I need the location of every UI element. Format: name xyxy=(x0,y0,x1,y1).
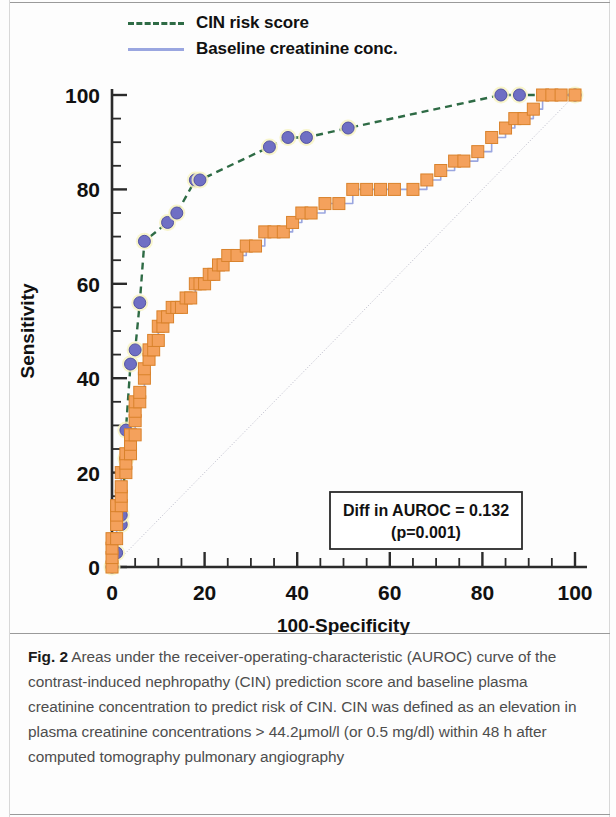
data-point-marker xyxy=(421,174,433,186)
y-axis-tick-label: 0 xyxy=(88,556,100,579)
data-point-marker xyxy=(388,183,400,195)
legend-label-cin-risk-score: CIN risk score xyxy=(196,13,309,33)
roc-plot: 020406080100020406080100100-SpecificityS… xyxy=(0,60,616,635)
data-point-marker xyxy=(555,89,567,101)
legend-item-cin-risk-score: CIN risk score xyxy=(128,10,468,36)
x-axis-tick-label: 60 xyxy=(378,581,401,604)
x-axis-title: 100-Specificity xyxy=(277,615,410,635)
data-point-marker xyxy=(347,183,359,195)
data-point-marker xyxy=(486,131,498,143)
data-point-marker xyxy=(129,344,141,356)
data-point-marker xyxy=(250,240,262,252)
divider-top xyxy=(10,2,610,3)
data-point-marker xyxy=(472,146,484,158)
data-point-marker xyxy=(300,131,312,143)
y-axis-tick-label: 100 xyxy=(65,84,100,107)
data-point-marker xyxy=(134,297,146,309)
x-axis-tick-label: 80 xyxy=(471,581,494,604)
auroc-annotation-line-1: Diff in AUROC = 0.132 xyxy=(343,502,509,519)
y-axis-title: Sensitivity xyxy=(17,283,38,378)
data-point-marker xyxy=(134,386,146,398)
x-axis-tick-label: 100 xyxy=(557,581,592,604)
legend-item-baseline-creatinine: Baseline creatinine conc. xyxy=(128,36,468,62)
data-point-marker xyxy=(407,183,419,195)
data-point-marker xyxy=(361,183,373,195)
data-point-marker xyxy=(305,207,317,219)
auroc-annotation-line-2: (p=0.001) xyxy=(391,524,461,541)
data-point-marker xyxy=(375,183,387,195)
data-point-marker xyxy=(569,89,581,101)
y-axis-tick-label: 80 xyxy=(77,178,100,201)
legend-swatch-dashed-icon xyxy=(128,22,184,25)
data-point-marker xyxy=(263,141,275,153)
data-point-marker xyxy=(194,174,206,186)
figure-label: Fig. 2 xyxy=(28,648,68,665)
y-axis-tick-label: 20 xyxy=(77,462,100,485)
data-point-marker xyxy=(185,292,197,304)
divider-bottom xyxy=(10,814,610,815)
data-point-marker xyxy=(333,198,345,210)
data-point-marker xyxy=(527,103,539,115)
data-point-marker xyxy=(458,155,470,167)
x-axis-tick-label: 20 xyxy=(193,581,216,604)
data-point-marker xyxy=(435,165,447,177)
x-axis-tick-label: 0 xyxy=(106,581,118,604)
data-point-marker xyxy=(342,122,354,134)
data-point-marker xyxy=(171,207,183,219)
data-point-marker xyxy=(495,89,507,101)
y-axis-tick-label: 40 xyxy=(77,367,100,390)
data-point-marker xyxy=(152,334,164,346)
data-point-marker xyxy=(282,131,294,143)
figure-caption-text: Areas under the receiver-operating-chara… xyxy=(28,648,577,765)
x-axis-tick-label: 40 xyxy=(286,581,309,604)
y-axis-tick-label: 60 xyxy=(77,273,100,296)
data-point-marker xyxy=(513,89,525,101)
legend-label-baseline-creatinine: Baseline creatinine conc. xyxy=(196,39,398,59)
data-point-marker xyxy=(115,481,127,493)
legend-swatch-solid-icon xyxy=(128,48,184,51)
roc-plot-svg: 020406080100020406080100100-SpecificityS… xyxy=(0,60,616,635)
data-point-marker xyxy=(138,235,150,247)
data-point-marker xyxy=(125,358,137,370)
data-point-marker xyxy=(111,533,123,545)
figure-root: CIN risk score Baseline creatinine conc.… xyxy=(0,0,616,817)
data-point-marker xyxy=(319,198,331,210)
figure-caption: Fig. 2 Areas under the receiver-operatin… xyxy=(28,644,588,769)
data-point-marker xyxy=(129,429,141,441)
chart-legend: CIN risk score Baseline creatinine conc. xyxy=(128,10,468,62)
